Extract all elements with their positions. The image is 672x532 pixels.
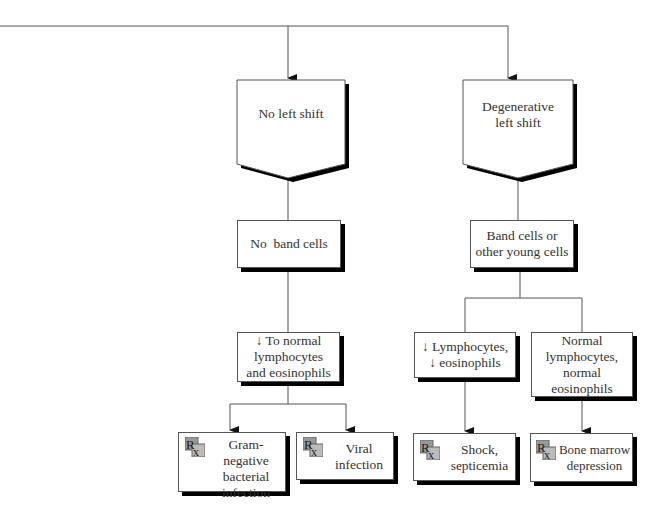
rx-icon: R x: [420, 440, 440, 460]
outcome-gram-negative: R x Gram- negative bacterial infection: [178, 432, 286, 492]
label-line: ↓ To normal: [256, 333, 322, 349]
outcome-bone-marrow-depression: R x Bone marrow depression: [530, 433, 633, 482]
label-line: lymphocytes,: [546, 349, 618, 365]
label-line: ↓ Lymphocytes,: [422, 339, 508, 355]
label-line: Viral: [327, 441, 391, 457]
label-line: eosinophils: [551, 381, 613, 397]
label-line: Normal: [561, 333, 602, 349]
label-line: negative: [209, 453, 283, 469]
decreased-to-normal-node: ↓ To normal lymphocytes and eosinophils: [237, 332, 340, 382]
label-line: normal: [563, 365, 601, 381]
no-left-shift-node: [237, 80, 345, 178]
label-line: depression: [557, 458, 632, 474]
label-line: and eosinophils: [246, 365, 330, 381]
label-line: Degenerative: [463, 99, 573, 115]
rx-icon: R x: [185, 437, 205, 457]
label-line: bacterial: [209, 469, 283, 485]
outcome-label: Gram- negative bacterial infection: [209, 437, 283, 501]
rx-icon: R x: [303, 437, 323, 457]
outcome-label: Viral infection: [327, 441, 391, 473]
outcome-shock-septicemia: R x Shock, septicemia: [413, 433, 516, 481]
label-line: lymphocytes: [254, 349, 323, 365]
label-line: left shift: [463, 115, 573, 131]
node-label: No band cells: [250, 236, 328, 252]
svg-text:x: x: [428, 448, 434, 460]
label-line: Gram-: [209, 437, 283, 453]
no-left-shift-label: No left shift: [237, 106, 345, 122]
label-line: other young cells: [476, 244, 569, 260]
decreased-lymphocytes-node: ↓ Lymphocytes, ↓ eosinophils: [414, 332, 516, 378]
no-band-cells-node: No band cells: [237, 220, 341, 268]
label-line: ↓ eosinophils: [429, 355, 501, 371]
rx-icon: R x: [536, 440, 556, 460]
svg-text:x: x: [193, 445, 199, 457]
svg-text:x: x: [311, 445, 317, 457]
label-line: infection: [327, 457, 391, 473]
label-line: septicemia: [446, 458, 513, 474]
label-line: Bone marrow: [557, 442, 632, 458]
outcome-viral-infection: R x Viral infection: [296, 432, 394, 480]
label-line: Band cells or: [486, 228, 557, 244]
label-line: infection: [209, 485, 283, 501]
degenerative-left-shift-label: Degenerative left shift: [463, 99, 573, 131]
svg-text:x: x: [544, 448, 550, 460]
label-line: Shock,: [446, 442, 513, 458]
outcome-label: Bone marrow depression: [557, 442, 632, 474]
outcome-label: Shock, septicemia: [446, 442, 513, 474]
band-cells-node: Band cells or other young cells: [470, 220, 574, 268]
normal-lymphocytes-node: Normal lymphocytes, normal eosinophils: [531, 332, 633, 397]
